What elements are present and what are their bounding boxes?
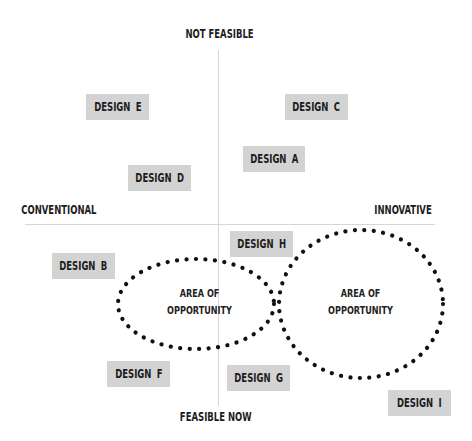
design-a-box: DESIGN A <box>243 146 305 172</box>
design-f-box: DESIGN F <box>107 361 170 387</box>
design-e-box: DESIGN E <box>86 94 149 120</box>
design-label: DESIGN F <box>115 367 162 381</box>
design-h-box: DESIGN H <box>230 231 293 257</box>
area-label-line2: OPPORTUNITY <box>167 302 232 319</box>
area-of-opportunity-right: AREA OF OPPORTUNITY <box>328 285 393 319</box>
design-c-box: DESIGN C <box>285 94 348 120</box>
design-label: DESIGN C <box>293 100 341 114</box>
design-label: DESIGN I <box>397 396 442 410</box>
design-label: DESIGN E <box>94 100 141 114</box>
design-label: DESIGN B <box>59 259 107 273</box>
area-label-line2: OPPORTUNITY <box>328 302 393 319</box>
area-label-line1: AREA OF <box>167 285 232 302</box>
design-i-box: DESIGN I <box>388 390 451 416</box>
design-b-box: DESIGN B <box>52 253 115 279</box>
area-label-line1: AREA OF <box>328 285 393 302</box>
design-d-box: DESIGN D <box>128 165 191 191</box>
design-label: DESIGN G <box>234 371 283 385</box>
design-label: DESIGN A <box>250 152 298 166</box>
area-of-opportunity-left: AREA OF OPPORTUNITY <box>167 285 232 319</box>
design-label: DESIGN D <box>135 171 184 185</box>
design-label: DESIGN H <box>237 237 286 251</box>
design-g-box: DESIGN G <box>227 365 290 391</box>
